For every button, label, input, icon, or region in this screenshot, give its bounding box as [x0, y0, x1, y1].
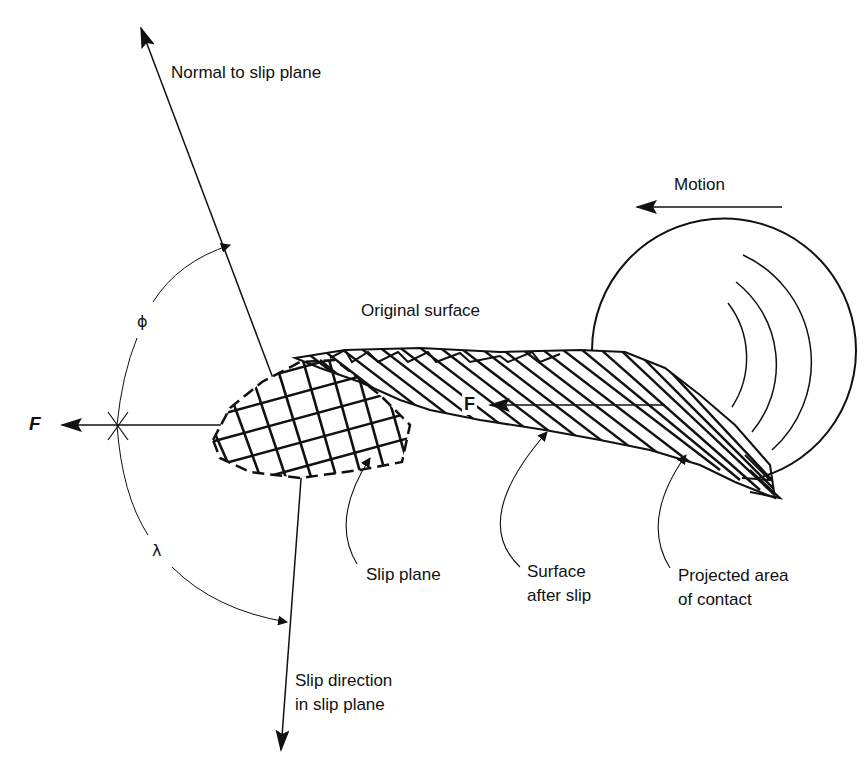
phi-symbol: ϕ — [137, 312, 148, 331]
normal-arrow — [141, 28, 285, 410]
force-f-label: F — [29, 413, 41, 435]
slip-direction-label-1: Slip direction — [295, 670, 392, 691]
contact-force-label: F — [462, 394, 477, 415]
normal-label: Normal to slip plane — [171, 62, 321, 83]
projected-area-label-2: of contact — [678, 589, 752, 610]
original-surface-label: Original surface — [361, 300, 480, 321]
lambda-symbol: λ — [152, 541, 161, 560]
slip-diagram — [0, 0, 865, 767]
surface-after-slip-label-2: after slip — [527, 585, 591, 606]
slip-direction-label-2: in slip plane — [295, 694, 385, 715]
motion-label: Motion — [674, 174, 725, 195]
surface-after-slip-label-1: Surface — [527, 561, 586, 582]
phi-arc — [117, 245, 230, 425]
slip-plane-label: Slip plane — [366, 564, 441, 585]
slip-plane-crosshatch — [200, 335, 420, 520]
projected-area-label-1: Projected area — [678, 565, 789, 586]
